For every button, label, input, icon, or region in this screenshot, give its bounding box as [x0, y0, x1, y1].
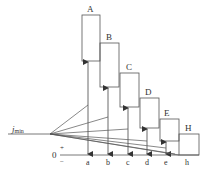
plus-label: + — [60, 144, 64, 152]
tolerance-diagram: A B C D E H jmin 0 + − a b c d e h — [0, 0, 210, 175]
box-H — [179, 134, 199, 155]
fan-line-b — [50, 117, 108, 134]
box-label-B: B — [106, 32, 112, 42]
fan-line-a — [50, 105, 88, 134]
axis-label-d: d — [145, 158, 149, 167]
box-label-E: E — [164, 108, 170, 118]
box-label-D: D — [145, 87, 152, 97]
box-C — [120, 73, 139, 107]
box-D — [140, 98, 159, 128]
axis-label-c: c — [126, 158, 130, 167]
axis-label-h: h — [185, 158, 189, 167]
boxes-group — [82, 15, 199, 155]
fan-line-c — [50, 129, 128, 134]
box-label-A: A — [87, 4, 94, 14]
axis-label-b: b — [106, 158, 110, 167]
box-A — [82, 15, 100, 61]
axis-label-a: a — [86, 158, 90, 167]
box-E — [160, 119, 179, 141]
box-label-C: C — [126, 62, 132, 72]
axis-label-e: e — [164, 158, 168, 167]
box-label-H: H — [185, 123, 192, 133]
minus-label: − — [60, 158, 64, 166]
jmin-label: jmin — [11, 124, 24, 134]
box-B — [100, 43, 119, 87]
zero-label: 0 — [52, 150, 57, 160]
